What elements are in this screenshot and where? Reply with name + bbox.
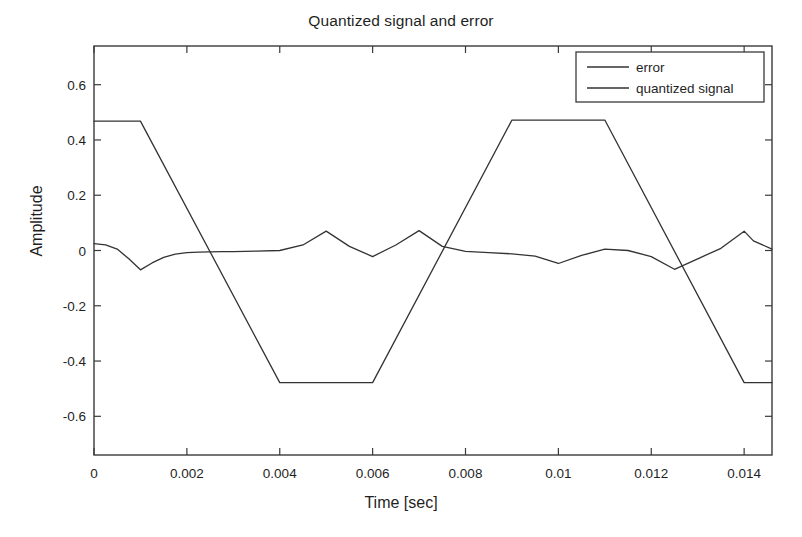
y-tick-label: -0.6 [28,409,86,424]
y-tick-label: -0.2 [28,298,86,313]
x-tick-label: 0 [90,466,98,481]
x-tick-label: 0.008 [449,466,483,481]
chart-figure: Quantized signal and error Amplitude Tim… [0,0,802,537]
y-tick-label: 0 [28,243,86,258]
legend-item-label[interactable]: error [636,60,665,75]
chart-title: Quantized signal and error [0,12,802,30]
y-tick-label: 0.2 [28,188,86,203]
y-tick-label: -0.4 [28,354,86,369]
x-tick-label: 0.01 [545,466,571,481]
x-tick-label: 0.004 [263,466,297,481]
series-line-quantized-signal [94,120,772,383]
y-tick-label: 0.4 [28,132,86,147]
y-axis-title: Amplitude [28,151,46,291]
axes-frame [94,46,772,455]
x-tick-label: 0.002 [170,466,204,481]
x-tick-label: 0.006 [356,466,390,481]
y-tick-label: 0.6 [28,77,86,92]
x-tick-label: 0.012 [634,466,668,481]
series-line-error [94,231,772,270]
legend-item-label[interactable]: quantized signal [636,81,734,96]
x-axis-title: Time [sec] [0,494,802,512]
x-tick-label: 0.014 [727,466,761,481]
